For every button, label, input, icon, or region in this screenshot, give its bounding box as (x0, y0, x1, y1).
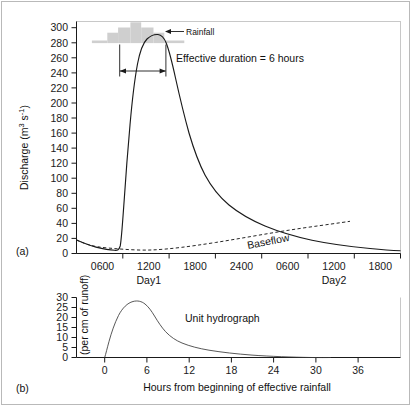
unit-hydrograph-label: Unit hydrograph (185, 312, 260, 324)
panel-b-xtick-36: 36 (352, 364, 364, 376)
panel-a-day2-label: Day2 (322, 274, 347, 286)
panel-b-xtick-6: 6 (144, 364, 150, 376)
panel-b-y-tick-labels: 0 5 10 15 20 25 30 (56, 291, 68, 363)
effective-duration-marker (120, 45, 166, 77)
rain-bar-7 (164, 41, 184, 44)
panel-b-y-axis-title: (per cm of runoff) (78, 275, 90, 355)
panel-b-label: (b) (16, 382, 29, 394)
effective-duration-label: Effective duration = 6 hours (176, 52, 304, 64)
panel-a: 0 20 40 60 80 100 120 140 160 180 200 22… (16, 21, 401, 286)
panel-b-y-ticks (72, 298, 77, 358)
baseflow-curve (77, 221, 351, 250)
panel-a-ytick-180: 180 (50, 112, 68, 124)
panel-a-label: (a) (16, 245, 29, 257)
panel-b-xtick-18: 18 (226, 364, 238, 376)
panel-a-xtick-1200-day2: 1200 (322, 260, 346, 272)
panel-a-ytick-60: 60 (56, 202, 68, 214)
storm-hydrograph-curve (77, 34, 401, 250)
panel-a-x-tick-labels: 0600 1200 1800 2400 0600 1200 1800 (91, 260, 392, 272)
rain-bar-4 (130, 22, 141, 43)
panel-a-ytick-140: 140 (50, 142, 68, 154)
hydrograph-plot-svg: 0 20 40 60 80 100 120 140 160 180 200 22… (0, 0, 411, 406)
panel-b-x-tick-labels: 0 6 12 18 24 30 36 (102, 364, 364, 376)
panel-a-day1-label: Day1 (137, 274, 162, 286)
panel-a-ytick-160: 160 (50, 127, 68, 139)
panel-b-xtick-0: 0 (102, 364, 108, 376)
rainfall-arrow-head-icon (165, 29, 171, 34)
rain-bar-1 (92, 41, 107, 44)
rain-bar-2 (107, 33, 118, 43)
rainfall-label: Rainfall (186, 27, 214, 37)
panel-a-ytick-240: 240 (50, 67, 68, 79)
unit-hydrograph-curve (105, 301, 331, 358)
effective-duration-arrow-head-left-icon (120, 69, 126, 74)
panel-a-ytick-220: 220 (50, 82, 68, 94)
panel-a-xtick-2400-day1: 2400 (230, 260, 254, 272)
panel-a-ytick-40: 40 (56, 217, 68, 229)
effective-duration-arrow-head-right-icon (160, 69, 166, 74)
panel-a-y-ticks (72, 28, 77, 254)
panel-a-ytick-80: 80 (56, 187, 68, 199)
panel-b-xtick-30: 30 (310, 364, 322, 376)
panel-a-ytick-300: 300 (50, 21, 68, 33)
panel-a-ytick-20: 20 (56, 232, 68, 244)
panel-a-ytick-200: 200 (50, 97, 68, 109)
panel-b-x-ticks (105, 358, 358, 363)
panel-a-x-ticks (123, 254, 401, 259)
panel-a-ytick-280: 280 (50, 37, 68, 49)
panel-b-xtick-24: 24 (268, 364, 280, 376)
panel-a-ytick-260: 260 (50, 52, 68, 64)
baseflow-label: Baseflow (246, 231, 291, 251)
panel-b-xtick-12: 12 (183, 364, 195, 376)
panel-a-ytick-0: 0 (62, 247, 68, 259)
panel-a-y-tick-labels: 0 20 40 60 80 100 120 140 160 180 200 22… (50, 21, 68, 259)
panel-a-xtick-0600-day2: 0600 (276, 260, 300, 272)
panel-b-x-axis-title: Hours from beginning of effective rainfa… (143, 381, 331, 393)
panel-b-ytick-30: 30 (56, 291, 68, 303)
panel-a-ytick-100: 100 (50, 172, 68, 184)
panel-a-xtick-1800-day2: 1800 (369, 260, 393, 272)
panel-a-xtick-1200-day1: 1200 (137, 260, 161, 272)
hydrograph-figure: 0 20 40 60 80 100 120 140 160 180 200 22… (0, 0, 411, 406)
panel-a-xtick-0600-day1: 0600 (91, 260, 115, 272)
rain-bar-3 (118, 28, 130, 44)
rainfall-callout: Rainfall (165, 27, 214, 37)
panel-a-xtick-1800-day1: 1800 (183, 260, 207, 272)
panel-b: 0 5 10 15 20 25 30 (per cm of runoff) (16, 275, 401, 394)
panel-a-y-axis-title: Discharge (m3 s-1) (17, 105, 31, 190)
panel-a-ytick-120: 120 (50, 157, 68, 169)
